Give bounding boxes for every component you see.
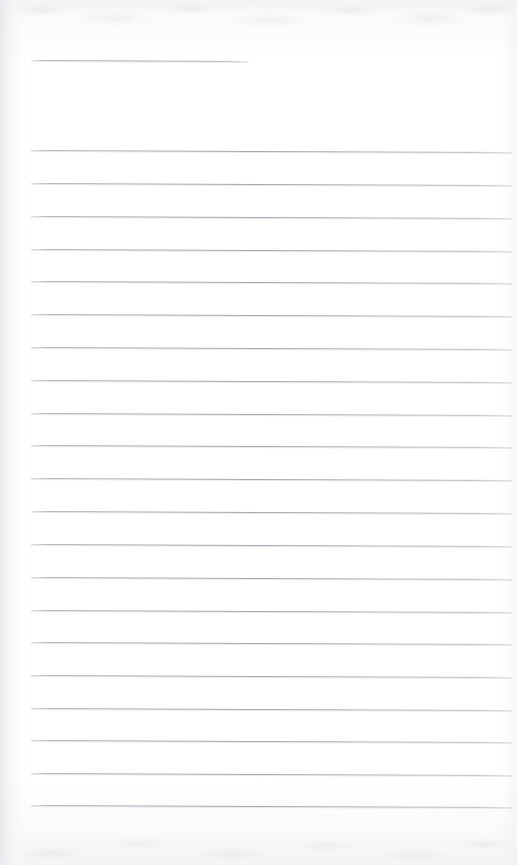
rule-14 bbox=[31, 577, 512, 580]
rule-6 bbox=[31, 314, 512, 317]
rule-9 bbox=[31, 413, 512, 416]
right-edge-scan-shadow bbox=[501, 0, 517, 865]
paper-background bbox=[0, 0, 517, 865]
rule-17 bbox=[31, 675, 512, 678]
rule-13 bbox=[31, 544, 512, 547]
rule-15 bbox=[31, 610, 512, 613]
rule-header-short bbox=[31, 60, 248, 62]
rule-16 bbox=[31, 642, 512, 645]
rule-7 bbox=[31, 347, 512, 350]
rule-10 bbox=[31, 445, 512, 448]
top-scan-noise bbox=[0, 0, 517, 34]
left-edge-scan-shadow bbox=[0, 0, 30, 865]
rule-20 bbox=[31, 773, 512, 776]
bottom-scan-noise bbox=[0, 825, 517, 865]
rule-3 bbox=[31, 216, 512, 219]
rule-1 bbox=[31, 150, 512, 153]
rule-19 bbox=[31, 740, 512, 743]
rule-12 bbox=[31, 511, 512, 514]
rule-2 bbox=[31, 183, 512, 186]
rule-8 bbox=[31, 380, 512, 383]
rule-5 bbox=[31, 281, 512, 284]
scanned-page bbox=[0, 0, 517, 865]
rule-21 bbox=[31, 805, 512, 808]
rule-11 bbox=[31, 478, 512, 481]
rule-18 bbox=[31, 708, 512, 711]
rule-4 bbox=[31, 249, 512, 252]
